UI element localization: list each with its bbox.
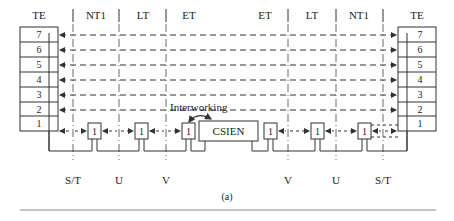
label-nt1-left: NT1 [86, 9, 106, 21]
csien-node: CSIEN [199, 121, 258, 141]
te-left-layer-4: 4 [37, 74, 42, 85]
relay-box-et-right: 1 [264, 123, 277, 139]
interworking-label: Interworking [170, 101, 228, 113]
ref-st-right: S/T [375, 174, 391, 186]
label-et-left: ET [182, 9, 196, 21]
te-left-layer-6: 6 [37, 44, 42, 55]
svg-text:1: 1 [186, 126, 191, 137]
te-right-layer-3: 3 [418, 89, 423, 100]
ref-v-right: V [284, 174, 292, 186]
relay-box-lt-right: 1 [311, 123, 324, 139]
ref-v-left: V [162, 174, 170, 186]
te-right-layer-1: 1 [418, 118, 423, 129]
header-separators [73, 9, 383, 22]
label-et-right: ET [258, 9, 272, 21]
te-left-layer-7: 7 [37, 29, 42, 40]
header-labels: TE NT1 LT ET ET LT NT1 TE [32, 9, 424, 21]
relay-box-lt-left: 1 [135, 123, 148, 139]
interworking-annotation: Interworking [170, 101, 228, 122]
relay-box-nt1-right: 1 [358, 123, 371, 139]
figure-caption: (a) [221, 191, 232, 203]
ref-st-left: S/T [65, 174, 81, 186]
peer-protocol-arrows [60, 35, 396, 110]
te-left-layer-5: 5 [37, 59, 42, 70]
svg-text:1: 1 [268, 126, 273, 137]
reference-point-labels: S/T U V V U S/T [65, 174, 391, 186]
te-right-layer-2: 2 [418, 104, 423, 115]
svg-text:1: 1 [139, 126, 144, 137]
relay-box-nt1-left: 1 [88, 123, 101, 139]
te-right-layer-4: 4 [418, 74, 423, 85]
label-nt1-right: NT1 [349, 9, 369, 21]
label-te-right: TE [410, 9, 424, 21]
ref-u-right: U [332, 174, 340, 186]
osi-layer-diagram: TE NT1 LT ET ET LT NT1 TE [0, 0, 454, 221]
te-right-layer-6: 6 [418, 44, 423, 55]
te-left-layer-3: 3 [37, 89, 42, 100]
label-lt-right: LT [306, 9, 319, 21]
relay-box-et-left: 1 [182, 123, 195, 139]
te-right-layer-7: 7 [418, 29, 423, 40]
svg-text:CSIEN: CSIEN [213, 125, 245, 137]
te-right-layer-5: 5 [418, 59, 423, 70]
svg-text:1: 1 [315, 126, 320, 137]
te-left-layer-2: 2 [37, 104, 42, 115]
te-left-layer-1: 1 [37, 118, 42, 129]
svg-text:1: 1 [362, 126, 367, 137]
svg-text:1: 1 [92, 126, 97, 137]
label-lt-left: LT [137, 9, 150, 21]
te-left-stack: 7 6 5 4 3 2 1 [20, 27, 58, 151]
label-te-left: TE [32, 9, 46, 21]
te-right-stack: 7 6 5 4 3 2 1 [398, 27, 436, 151]
ref-u-left: U [115, 174, 123, 186]
